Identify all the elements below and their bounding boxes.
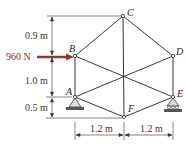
dimension-lines: [46, 16, 173, 140]
truss-members: [75, 16, 173, 117]
dim-label-v1: 0.9 m: [25, 31, 48, 41]
force-label: 960 N: [6, 52, 31, 62]
node-label-b: B: [69, 44, 75, 54]
node-label-a: A: [66, 87, 72, 97]
node-label-c: C: [127, 8, 134, 18]
node-label-e: E: [177, 89, 183, 99]
dim-label-h2: 1.2 m: [140, 124, 163, 134]
force-arrow: [37, 54, 74, 61]
dim-label-v3: 0.5 m: [25, 103, 48, 113]
dim-label-h1: 1.2 m: [90, 124, 113, 134]
dim-label-v2: 1.0 m: [25, 76, 48, 86]
node-label-f: F: [128, 104, 134, 114]
roller-support-e: [164, 98, 182, 112]
node-label-d: D: [176, 47, 183, 57]
